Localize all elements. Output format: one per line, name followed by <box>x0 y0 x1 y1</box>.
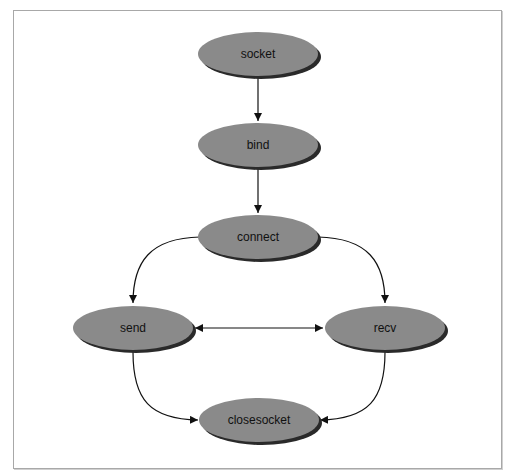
node-label: connect <box>237 230 280 244</box>
node-label: bind <box>247 138 270 152</box>
node-label: socket <box>241 47 276 61</box>
edge-recv-closesocket <box>320 352 385 420</box>
node-label: closesocket <box>228 413 291 427</box>
node-recv[interactable]: recv <box>325 306 448 353</box>
node-label: send <box>120 321 146 335</box>
flow-diagram: socket bind connect send recv closesocke… <box>0 0 512 474</box>
node-send[interactable]: send <box>73 306 196 353</box>
edge-send-closesocket <box>133 352 198 420</box>
node-bind[interactable]: bind <box>198 123 321 170</box>
edge-connect-send <box>133 237 200 303</box>
node-label: recv <box>374 321 397 335</box>
node-socket[interactable]: socket <box>198 32 321 79</box>
node-connect[interactable]: connect <box>198 215 321 262</box>
node-closesocket[interactable]: closesocket <box>199 398 322 445</box>
edge-connect-recv <box>318 237 385 303</box>
